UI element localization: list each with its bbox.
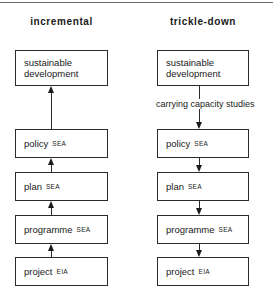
box-abbr: SEA (46, 181, 60, 192)
box-label-line1: sustainable (166, 57, 220, 68)
incremental-box-policy: policySEA (15, 129, 108, 158)
trickle-box-project: projectEIA (157, 257, 249, 286)
arrow-up-icon (48, 86, 54, 93)
box-abbr: SEA (77, 224, 91, 235)
box-abbr: EIA (199, 266, 210, 277)
box-abbr: EIA (57, 266, 68, 277)
column-title-incremental: incremental (15, 16, 108, 27)
incremental-box-project: projectEIA (15, 257, 108, 286)
connector-line (199, 158, 200, 165)
arrow-down-icon (196, 208, 202, 215)
box-abbr: SEA (219, 224, 233, 235)
box-label: plan (24, 181, 42, 192)
arrow-down-icon (196, 165, 202, 172)
trickle-box-policy: policySEA (157, 129, 249, 158)
arrow-up-icon (48, 158, 54, 165)
box-abbr: SEA (194, 138, 208, 149)
box-label: programme (24, 224, 73, 235)
box-label-line2: development (166, 68, 220, 79)
connector-line (51, 93, 52, 129)
box-abbr: SEA (188, 181, 202, 192)
connector-line (51, 208, 52, 215)
box-label: project (166, 266, 195, 277)
connector-line (51, 165, 52, 172)
incremental-box-plan: planSEA (15, 172, 108, 201)
edge-label-carrying-capacity: carrying capacity studies (156, 99, 255, 109)
arrow-down-icon (196, 250, 202, 257)
box-label: plan (166, 181, 184, 192)
box-label-line2: development (24, 68, 78, 79)
column-title-trickle-down: trickle-down (150, 16, 256, 27)
connector-line (199, 201, 200, 208)
trickle-box-programme: programmeSEA (157, 215, 249, 244)
incremental-box-sustainable-development: sustainable development (15, 50, 108, 86)
box-label-line1: sustainable (24, 57, 78, 68)
box-abbr: SEA (52, 138, 66, 149)
box-label: policy (24, 138, 48, 149)
top-rule (0, 2, 273, 3)
arrow-up-icon (48, 201, 54, 208)
arrow-down-icon (196, 122, 202, 129)
trickle-box-sustainable-development: sustainable development (157, 50, 249, 86)
box-label: project (24, 266, 53, 277)
box-label: programme (166, 224, 215, 235)
box-label: policy (166, 138, 190, 149)
trickle-box-plan: planSEA (157, 172, 249, 201)
incremental-box-programme: programmeSEA (15, 215, 108, 244)
arrow-up-icon (48, 244, 54, 251)
